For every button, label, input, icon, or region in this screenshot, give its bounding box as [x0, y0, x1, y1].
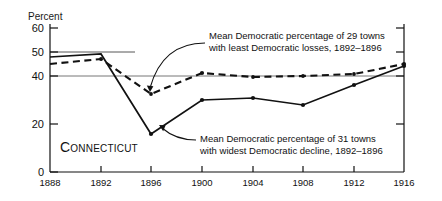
xtick-label-1892: 1892 — [81, 178, 121, 188]
ytick-label-40: 40 — [18, 71, 44, 82]
ytick-label-50: 50 — [18, 47, 44, 58]
reference-lines — [50, 52, 404, 76]
x-axis — [50, 166, 404, 172]
annotation-widest-decline-line2: with widest Democratic decline, 1892–189… — [200, 145, 383, 157]
xtick-label-1908: 1908 — [283, 178, 323, 188]
ytick-label-20: 20 — [18, 119, 44, 130]
annotation-widest-decline: Mean Democratic percentage of 31 towns w… — [200, 133, 383, 156]
xtick-label-1912: 1912 — [334, 178, 374, 188]
region-label-connecticut: Connecticut — [60, 140, 138, 154]
annotation-least-losses: Mean Democratic percentage of 29 towns w… — [209, 30, 385, 53]
series-least-losses-line — [50, 59, 404, 94]
right-axis — [396, 24, 404, 172]
xtick-label-1900: 1900 — [182, 178, 222, 188]
annotation-least-losses-line2: with least Democratic losses, 1892–1896 — [209, 42, 385, 54]
chart-figure: Percent 60 50 40 20 0 1888 1892 1896 190… — [0, 0, 442, 201]
annotation-least-losses-line1: Mean Democratic percentage of 29 towns — [209, 30, 385, 42]
annotation-widest-decline-line1: Mean Democratic percentage of 31 towns — [200, 133, 383, 145]
y-axis — [50, 24, 58, 172]
xtick-label-1916: 1916 — [384, 178, 424, 188]
y-axis-title: Percent — [28, 12, 62, 22]
leader-widest-decline — [159, 125, 196, 140]
series-widest-decline-line — [50, 54, 404, 134]
xtick-label-1896: 1896 — [131, 178, 171, 188]
xtick-label-1904: 1904 — [233, 178, 273, 188]
xtick-label-1888: 1888 — [30, 178, 70, 188]
ytick-label-60: 60 — [18, 23, 44, 34]
